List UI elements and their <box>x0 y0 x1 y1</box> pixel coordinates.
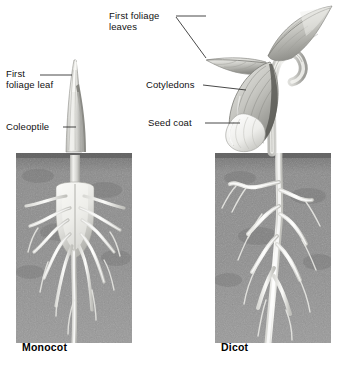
leader-dicot-leaves-lower <box>176 17 206 58</box>
illustration-canvas <box>0 0 339 372</box>
monocot-shoot <box>66 60 86 152</box>
leader-cotyledons <box>203 85 246 90</box>
label-coleoptile: Coleoptile <box>6 121 49 132</box>
caption-dicot: Dicot <box>221 341 248 353</box>
caption-monocot: Monocot <box>22 341 67 353</box>
seedling-germination-figure: First foliage leaf Coleoptile First foli… <box>0 0 339 372</box>
label-cotyledons: Cotyledons <box>146 79 195 90</box>
label-first-foliage-leaves: First foliage leaves <box>109 10 159 32</box>
label-seed-coat: Seed coat <box>148 117 192 128</box>
dicot-shoot <box>206 6 332 152</box>
label-first-foliage-leaf: First foliage leaf <box>6 68 53 90</box>
